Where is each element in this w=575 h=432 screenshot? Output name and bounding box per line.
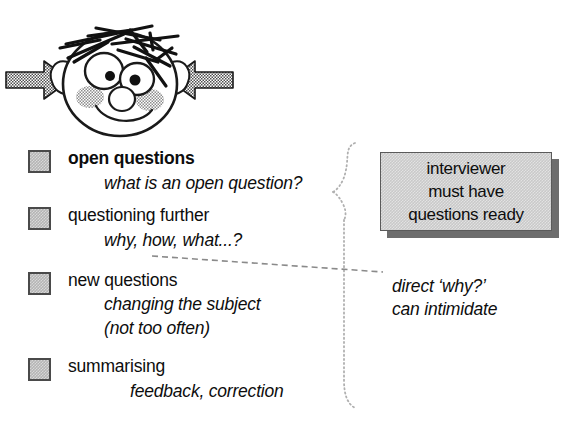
list-item-title: summarising — [68, 356, 165, 377]
list-item-title: open questions — [68, 148, 195, 169]
list-bullet-marker — [28, 207, 51, 230]
callout-box: interviewer must have questions ready — [380, 152, 552, 231]
list-item-title: questioning further — [68, 205, 209, 226]
list-bullet-marker — [28, 272, 51, 295]
list-item-subtitle: feedback, correction — [130, 381, 284, 402]
list-item-subtitle: (not too often) — [104, 318, 210, 339]
side-note-line: can intimidate — [392, 298, 497, 321]
dashed-leader-line — [150, 250, 385, 280]
list-item-subtitle: why, how, what...? — [104, 230, 242, 251]
nose — [109, 87, 135, 111]
list-bullet-marker — [28, 358, 51, 381]
slide-canvas: open questions what is an open question?… — [0, 0, 575, 432]
list-item-subtitle: changing the subject — [104, 294, 261, 315]
callout-line: interviewer — [427, 157, 506, 180]
callout-line: must have — [428, 180, 504, 203]
list-item-subtitle: what is an open question? — [104, 173, 302, 194]
list-bullet-marker — [28, 150, 51, 173]
callout-line: questions ready — [408, 203, 524, 226]
cartoon-face-with-arrows — [0, 0, 290, 140]
side-note-line: direct ‘why?’ — [392, 275, 497, 298]
side-note: direct ‘why?’ can intimidate — [392, 275, 497, 321]
